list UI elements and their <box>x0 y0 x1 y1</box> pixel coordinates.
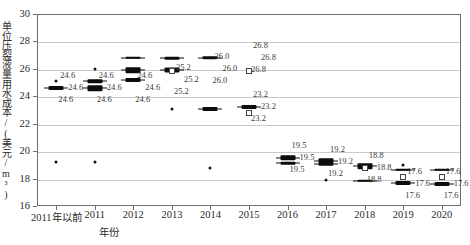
x-tick-label-2011年以前: 2011年以前 <box>31 209 82 224</box>
x-tick-label-2012: 2012 <box>123 209 144 220</box>
data-label: 26.8 <box>253 41 268 50</box>
data-label: 26.0 <box>214 52 229 61</box>
x-tick-label-2017: 2017 <box>316 209 337 220</box>
box-mark <box>242 105 257 109</box>
data-label: 23.2 <box>253 90 268 99</box>
outlier-point <box>93 67 96 70</box>
data-label: 26.8 <box>251 65 266 74</box>
box-mark <box>126 57 141 60</box>
outlier-point <box>170 108 173 111</box>
box-mark <box>87 85 102 90</box>
data-label: 25.2 <box>184 75 199 84</box>
data-label: 24.6 <box>68 83 83 92</box>
y-tick-mark <box>33 69 37 70</box>
box-mark <box>280 155 295 160</box>
box-mark <box>49 86 64 90</box>
data-label: 24.6 <box>60 71 75 80</box>
outlier-point <box>325 178 328 181</box>
outlier-point <box>209 167 212 170</box>
outlier-point <box>402 163 405 166</box>
mean-marker <box>439 174 445 180</box>
data-label: 25.2 <box>174 87 189 96</box>
data-label: 24.6 <box>58 95 73 104</box>
x-tick-label-2014: 2014 <box>200 209 221 220</box>
y-tick-mark <box>33 41 37 42</box>
x-tick-label-2011: 2011 <box>85 209 106 220</box>
outlier-point <box>93 161 96 164</box>
y-tick-mark <box>33 96 37 97</box>
data-label: 18.8 <box>369 151 384 160</box>
data-label: 17.6 <box>415 179 430 188</box>
data-label: 17.6 <box>446 167 461 176</box>
x-tick-label-2016: 2016 <box>277 209 298 220</box>
data-label: 24.6 <box>97 95 112 104</box>
data-label: 19.5 <box>300 153 315 162</box>
y-tick-label: 16 <box>0 200 30 211</box>
data-label: 18.8 <box>367 175 382 184</box>
data-label: 26.0 <box>212 76 227 85</box>
data-label: 17.6 <box>444 191 459 200</box>
y-tick-label: 20 <box>0 145 30 156</box>
box-mark <box>319 163 334 166</box>
data-label: 19.2 <box>330 145 345 154</box>
data-label: 23.2 <box>261 102 276 111</box>
outlier-point <box>55 161 58 164</box>
outlier-point <box>55 80 58 83</box>
y-tick-mark <box>33 14 37 15</box>
x-tick-label-2013: 2013 <box>161 209 182 220</box>
x-tick-label-2015: 2015 <box>239 209 260 220</box>
y-tick-mark <box>33 206 37 207</box>
x-tick-label-2019: 2019 <box>393 209 414 220</box>
gridline <box>38 152 460 153</box>
chart-root: 单位压裂液量用水成本/(美元/m³) 1618202224262830 2011… <box>0 0 470 245</box>
data-label: 17.6 <box>407 167 422 176</box>
data-label: 26.8 <box>261 53 276 62</box>
data-label: 17.6 <box>454 179 469 188</box>
box-mark <box>164 57 179 60</box>
y-tick-mark <box>33 124 37 125</box>
y-tick-label: 30 <box>0 8 30 19</box>
data-label: 17.6 <box>405 191 420 200</box>
box-mark <box>203 107 218 111</box>
data-label: 19.2 <box>328 169 343 178</box>
y-tick-mark <box>33 179 37 180</box>
mean-marker <box>169 68 175 74</box>
data-label: 18.8 <box>377 163 392 172</box>
y-tick-label: 28 <box>0 35 30 46</box>
y-tick-label: 18 <box>0 173 30 184</box>
y-tick-label: 26 <box>0 63 30 74</box>
box-mark <box>396 181 411 185</box>
y-tick-label: 22 <box>0 118 30 129</box>
data-label: 24.6 <box>145 83 160 92</box>
x-axis-title: 年份 <box>99 224 119 239</box>
data-label: 24.6 <box>107 83 122 92</box>
data-label: 19.5 <box>292 141 307 150</box>
box-mark <box>434 182 449 186</box>
data-label: 19.5 <box>290 165 305 174</box>
data-label: 23.2 <box>251 114 266 123</box>
gridline <box>38 42 460 43</box>
data-label: 24.6 <box>137 71 152 80</box>
data-label: 19.2 <box>338 157 353 166</box>
gridline <box>38 125 460 126</box>
mean-marker <box>400 174 406 180</box>
y-tick-label: 24 <box>0 90 30 101</box>
y-tick-mark <box>33 151 37 152</box>
data-label: 25.2 <box>176 63 191 72</box>
x-tick-label-2020: 2020 <box>431 209 452 220</box>
mean-marker <box>362 165 368 171</box>
data-label: 26.0 <box>222 64 237 73</box>
x-tick-label-2018: 2018 <box>354 209 375 220</box>
data-label: 24.6 <box>135 95 150 104</box>
data-label: 24.6 <box>99 71 114 80</box>
